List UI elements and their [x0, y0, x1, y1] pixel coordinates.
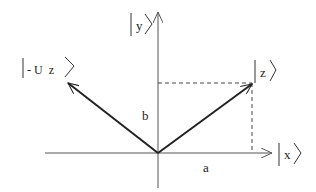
ket-neg-uz-label: - U z: [23, 57, 74, 78]
diagram-canvas: y - U z z x b a: [0, 0, 316, 192]
ket-y-label: y: [131, 13, 152, 36]
vector-diagram: y - U z z x b a: [0, 0, 316, 192]
ket-x-label: x: [279, 143, 301, 166]
y-label-text: y: [136, 18, 143, 33]
vector-z: [158, 84, 252, 153]
x-label-text: x: [284, 147, 291, 162]
neg-uz-label-text: - U z: [27, 63, 54, 77]
b-label: b: [142, 108, 149, 123]
z-label-text: z: [260, 65, 266, 80]
a-label: a: [203, 160, 209, 175]
ket-z-label: z: [255, 60, 276, 83]
